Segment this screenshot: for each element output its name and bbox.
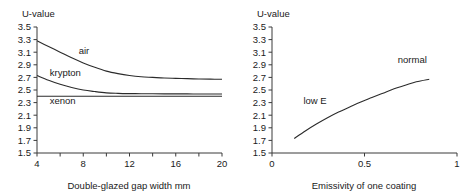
y-tick-label: 2.3 [18, 97, 31, 108]
y-tick-label: 2.7 [18, 72, 31, 83]
y-tick-label: 1.7 [253, 135, 266, 146]
y-axis-title-right: U-value [257, 8, 290, 19]
y-tick-label: 2.7 [253, 72, 266, 83]
x-tick-label: 4 [34, 158, 39, 169]
y-tick-label: 3.1 [18, 47, 31, 58]
y-axis-title-left: U-value [22, 8, 55, 19]
chart-panel-emissivity: U-value 1.51.71.92.12.32.52.72.93.13.33.… [235, 0, 470, 196]
y-tick-label: 3.5 [253, 21, 266, 32]
y-tick-label: 1.9 [18, 122, 31, 133]
x-tick-group-right: 00.51 [269, 153, 459, 169]
y-axis-left: 1.51.71.92.12.32.52.72.93.13.33.5 [18, 21, 37, 158]
y-tick-label: 2.9 [253, 59, 266, 70]
y-tick-label: 1.5 [253, 147, 266, 158]
x-tick-group-left: 48121620 [34, 153, 227, 169]
figure-container: U-value 1.51.71.92.12.32.52.72.93.13.33.… [0, 0, 470, 196]
x-axis-right: 00.51 [269, 153, 459, 169]
y-axis-right: 1.51.71.92.12.32.52.72.93.13.33.5 [253, 21, 272, 158]
x-tick-label: 20 [217, 158, 228, 169]
x-tick-label: 12 [124, 158, 135, 169]
y-tick-label: 2.1 [18, 110, 31, 121]
y-tick-label: 2.5 [253, 84, 266, 95]
y-tick-label: 2.3 [253, 97, 266, 108]
x-tick-label: 1 [454, 158, 459, 169]
y-tick-label: 2.5 [18, 84, 31, 95]
curve-label-xenon: xenon [50, 95, 76, 106]
chart-panel-gap-width: U-value 1.51.71.92.12.32.52.72.93.13.33.… [0, 0, 235, 196]
x-tick-label: 0 [269, 158, 274, 169]
annotation-label-1: normal [398, 54, 427, 65]
x-axis-title-left: Double-glazed gap width mm [67, 180, 190, 191]
annotation-label-0: low E [303, 95, 326, 106]
y-tick-label: 3.1 [253, 47, 266, 58]
y-tick-label: 1.9 [253, 122, 266, 133]
curve-u-value-vs-emissivity [294, 79, 429, 138]
emissivity-chart-svg: U-value 1.51.71.92.12.32.52.72.93.13.33.… [235, 0, 470, 196]
y-tick-group-left: 1.51.71.92.12.32.52.72.93.13.33.5 [18, 21, 37, 158]
y-tick-label: 1.5 [18, 147, 31, 158]
y-tick-label: 2.9 [18, 59, 31, 70]
y-tick-label: 3.3 [18, 34, 31, 45]
y-tick-group-right: 1.51.71.92.12.32.52.72.93.13.33.5 [253, 21, 272, 158]
gap-width-chart-svg: U-value 1.51.71.92.12.32.52.72.93.13.33.… [0, 0, 235, 196]
curve-label-krypton: krypton [50, 67, 81, 78]
y-tick-label: 1.7 [18, 135, 31, 146]
x-tick-label: 16 [170, 158, 181, 169]
curves-group-right [294, 79, 429, 138]
curve-label-air: air [79, 45, 90, 56]
x-axis-left: 48121620 [34, 153, 227, 169]
y-tick-label: 3.3 [253, 34, 266, 45]
y-tick-label: 3.5 [18, 21, 31, 32]
annotation-labels-right: low Enormal [303, 54, 426, 107]
x-tick-label: 8 [81, 158, 86, 169]
curve-krypton [37, 76, 222, 95]
x-axis-title-right: Emissivity of one coating [312, 180, 417, 191]
y-tick-label: 2.1 [253, 110, 266, 121]
x-tick-label: 0.5 [358, 158, 371, 169]
